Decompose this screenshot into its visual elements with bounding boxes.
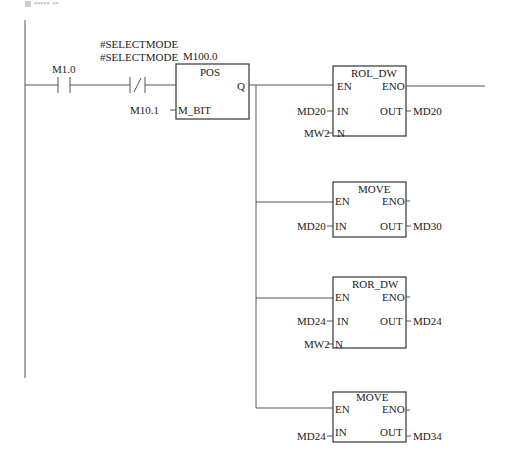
ror-dw-block[interactable]: ROR_DW EN ENO IN OUT N MD24 MD24 MW2	[297, 277, 442, 350]
in-value: MD24	[297, 315, 326, 327]
pos-input-value: M10.1	[130, 104, 159, 116]
rol-dw-block[interactable]: ROL_DW EN ENO IN OUT N MD20 MD20 MW2	[297, 66, 442, 139]
in-value: MD20	[297, 220, 326, 232]
out-pin: OUT	[380, 105, 403, 117]
eno-pin: ENO	[382, 195, 405, 207]
en-pin: EN	[337, 80, 352, 92]
out-value: MD30	[413, 220, 442, 232]
out-value: MD34	[413, 430, 442, 442]
in-value: MD24	[297, 430, 326, 442]
block-title: MOVE	[358, 183, 391, 195]
out-pin: OUT	[380, 220, 403, 232]
eno-pin: ENO	[382, 403, 405, 415]
contact-address: M1.0	[52, 63, 76, 75]
out-pin: OUT	[380, 426, 403, 438]
ladder-diagram: ◼ ▪▪▪▪▪ ▪▪ M1.0 #SELECTMODE #SELECTMODE …	[0, 0, 510, 457]
pos-input-pin: M_BIT	[178, 104, 211, 116]
en-pin: EN	[335, 403, 350, 415]
out-value: MD24	[413, 315, 442, 327]
contact-no-m1-0[interactable]: M1.0	[52, 63, 76, 93]
move-block-2[interactable]: MOVE EN ENO IN OUT MD24 MD34	[297, 391, 442, 442]
in-pin: IN	[335, 426, 347, 438]
eno-pin: ENO	[382, 80, 405, 92]
header-text: ◼ ▪▪▪▪▪ ▪▪	[24, 0, 58, 8]
pos-output-pin: Q	[237, 80, 245, 92]
out-value: MD20	[413, 105, 442, 117]
block-title: ROR_DW	[352, 278, 399, 290]
in-pin: IN	[337, 105, 349, 117]
n-pin: N	[337, 127, 345, 139]
block-title: ROL_DW	[351, 67, 397, 79]
en-pin: EN	[335, 291, 350, 303]
in-pin: IN	[337, 315, 349, 327]
pos-title: POS	[200, 66, 220, 78]
pos-address: M100.0	[183, 50, 218, 62]
in-value: MD20	[297, 105, 326, 117]
eno-pin: ENO	[382, 291, 405, 303]
move-block-1[interactable]: MOVE EN ENO IN OUT MD20 MD30	[297, 182, 442, 237]
in-pin: IN	[335, 220, 347, 232]
contact-address-line2: #SELECTMODE	[100, 51, 179, 63]
n-pin: N	[335, 338, 343, 350]
n-value: MW2	[304, 338, 330, 350]
contact-address-line1: #SELECTMODE	[100, 38, 179, 50]
block-title: MOVE	[356, 391, 389, 403]
out-pin: OUT	[380, 315, 403, 327]
n-value: MW2	[304, 127, 330, 139]
en-pin: EN	[335, 195, 350, 207]
